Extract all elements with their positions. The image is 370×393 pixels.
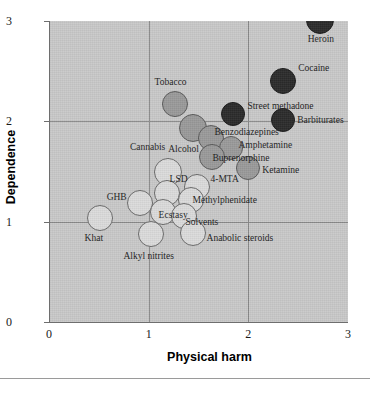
point-label-alcohol: Alcohol bbox=[168, 146, 199, 156]
bubble-tobacco[interactable] bbox=[162, 91, 188, 117]
point-label-ghb: GHB bbox=[107, 193, 127, 203]
point-label-4-mta: 4-MTA bbox=[211, 175, 239, 185]
y-tick-mark bbox=[44, 21, 49, 22]
point-label-cannabis: Cannabis bbox=[130, 143, 165, 153]
point-label-ketamine: Ketamine bbox=[262, 167, 299, 177]
bubble-street-methadone[interactable] bbox=[221, 102, 245, 126]
point-label-benzodiazepines: Benzodiazepines bbox=[214, 129, 278, 139]
point-label-cocaine: Cocaine bbox=[298, 64, 329, 74]
point-label-amphetamine: Amphetamine bbox=[238, 142, 292, 152]
plot-area: HeroinCocaineStreet methadoneBarbiturate… bbox=[49, 21, 348, 322]
y-tick-mark bbox=[44, 322, 49, 323]
bubble-heroin[interactable] bbox=[306, 21, 334, 34]
gridline-vertical bbox=[149, 21, 150, 322]
y-tick-mark bbox=[44, 222, 49, 223]
x-axis-title: Physical harm bbox=[0, 350, 370, 364]
x-tick-label: 0 bbox=[46, 327, 52, 342]
y-axis-title: Dependence bbox=[4, 92, 18, 242]
y-tick-label: 0 bbox=[6, 315, 12, 330]
bubble-alkyl-nitrites[interactable] bbox=[138, 221, 164, 247]
point-label-alkyl-nitrites: Alkyl nitrites bbox=[123, 252, 173, 262]
point-label-tobacco: Tobacco bbox=[155, 79, 187, 89]
y-tick-mark bbox=[44, 121, 49, 122]
point-label-barbiturates: Barbiturates bbox=[297, 117, 343, 127]
point-label-heroin: Heroin bbox=[308, 35, 334, 45]
bubble-cocaine[interactable] bbox=[270, 68, 296, 94]
y-tick-label: 3 bbox=[6, 14, 12, 29]
x-axis-line bbox=[49, 322, 348, 323]
point-label-khat: Khat bbox=[85, 234, 103, 244]
point-label-street-methadone: Street methadone bbox=[247, 103, 313, 113]
point-label-methylphenidate: Methylphenidate bbox=[193, 196, 257, 206]
x-tick-label: 2 bbox=[245, 327, 251, 342]
point-label-ecstasy: Ecstasy bbox=[159, 211, 188, 221]
bubble-khat[interactable] bbox=[87, 205, 113, 231]
point-label-solvents: Solvents bbox=[186, 218, 219, 228]
y-axis-line bbox=[49, 21, 50, 322]
point-label-anabolic-steroids: Anabolic steroids bbox=[207, 234, 274, 244]
figure-bottom-rule bbox=[0, 378, 370, 379]
x-tick-label: 1 bbox=[146, 327, 152, 342]
scatter-plot-figure: HeroinCocaineStreet methadoneBarbiturate… bbox=[0, 0, 370, 393]
x-tick-label: 3 bbox=[345, 327, 351, 342]
point-label-lsd: LSD bbox=[170, 175, 188, 185]
point-label-buprenorphine: Buprenorphine bbox=[212, 155, 269, 165]
